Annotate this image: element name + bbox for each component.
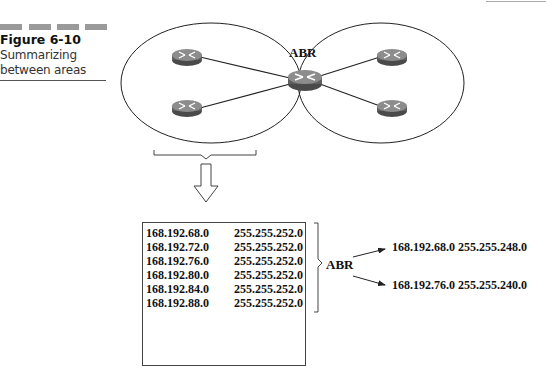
router-icon bbox=[172, 49, 202, 66]
link bbox=[320, 57, 380, 76]
route-row: 168.192.76.0255.255.252.0 bbox=[146, 254, 303, 269]
route-mask: 255.255.252.0 bbox=[234, 254, 303, 268]
route-mask: 255.255.252.0 bbox=[234, 240, 303, 254]
link bbox=[200, 84, 290, 108]
route-row: 168.192.84.0255.255.252.0 bbox=[146, 282, 303, 297]
route-network: 168.192.76.0 bbox=[146, 254, 210, 269]
link bbox=[200, 57, 290, 78]
router-icon bbox=[377, 49, 407, 66]
router-icon bbox=[377, 100, 407, 117]
route-row: 168.192.68.0255.255.252.0 bbox=[146, 226, 303, 241]
route-row: 168.192.88.0255.255.252.0 bbox=[146, 296, 303, 311]
area-bracket bbox=[154, 150, 256, 159]
route-row: 168.192.80.0255.255.252.0 bbox=[146, 268, 303, 283]
route-network: 168.192.72.0 bbox=[146, 240, 210, 255]
abr-router-icon bbox=[288, 70, 322, 91]
summary-route: 168.192.76.0 255.255.240.0 bbox=[392, 278, 527, 293]
summary-arrow bbox=[353, 249, 385, 257]
route-network: 168.192.84.0 bbox=[146, 282, 210, 297]
area-left bbox=[121, 23, 301, 143]
summary-network: 168.192.68.0 bbox=[392, 240, 455, 254]
routes-brace bbox=[314, 223, 322, 312]
route-mask: 255.255.252.0 bbox=[234, 268, 303, 282]
abr-label: ABR bbox=[289, 45, 316, 61]
route-mask: 255.255.252.0 bbox=[234, 226, 303, 240]
link bbox=[320, 84, 380, 106]
summary-mask: 255.255.240.0 bbox=[458, 278, 527, 292]
route-network: 168.192.68.0 bbox=[146, 226, 210, 241]
route-row: 168.192.72.0255.255.252.0 bbox=[146, 240, 303, 255]
router-icon bbox=[172, 100, 202, 117]
route-mask: 255.255.252.0 bbox=[234, 296, 303, 310]
route-network: 168.192.88.0 bbox=[146, 296, 210, 311]
summary-arrow bbox=[353, 276, 385, 285]
route-network: 168.192.80.0 bbox=[146, 268, 210, 283]
summary-network: 168.192.76.0 bbox=[392, 278, 455, 292]
down-arrow-icon bbox=[194, 164, 218, 202]
area-right bbox=[298, 23, 464, 143]
route-mask: 255.255.252.0 bbox=[234, 282, 303, 296]
brace-abr-label: ABR bbox=[326, 257, 353, 273]
summary-route: 168.192.68.0 255.255.248.0 bbox=[392, 240, 527, 255]
summary-mask: 255.255.248.0 bbox=[458, 240, 527, 254]
